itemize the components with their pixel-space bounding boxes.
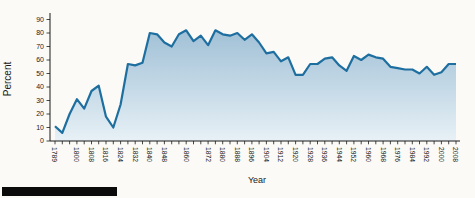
y-ticks [47,20,51,142]
x-tick-label: 1904 [263,147,270,162]
x-tick-label: 1968 [380,147,387,162]
x-tick-label: 1992 [423,147,430,162]
x-axis-title: Year [248,175,266,185]
x-tick-label: 1888 [234,147,241,162]
y-tick-label: 90 [36,16,44,23]
y-tick-label: 60 [36,56,44,63]
figure-caption-bar [2,187,117,196]
y-tick-label: 40 [36,83,44,90]
x-tick-label: 1976 [394,147,401,162]
x-tick-label: 1928 [307,147,314,162]
x-tick-label: 1789 [51,147,58,162]
x-tick-label: 1816 [102,147,109,162]
y-tick-label: 10 [36,124,44,131]
x-tick-label: 1912 [277,147,284,162]
y-axis-title: Percent [2,62,13,97]
y-tick-labels: 0102030405060708090 [36,16,44,145]
x-tick-label: 2000 [438,147,445,162]
x-tick-label: 1860 [183,147,190,162]
x-tick-label: 1984 [409,147,416,162]
y-tick-label: 30 [36,97,44,104]
voter-turnout-figure: 0102030405060708090 17891800180818161824… [0,0,475,198]
y-tick-label: 50 [36,70,44,77]
x-tick-label: 1808 [88,147,95,162]
x-tick-label: 1896 [248,147,255,162]
x-tick-label: 1800 [73,147,80,162]
x-tick-label: 1872 [205,147,212,162]
x-tick-label: 1832 [132,147,139,162]
x-tick-label: 1936 [321,147,328,162]
turnout-area-chart: 0102030405060708090 17891800180818161824… [0,0,475,198]
x-tick-label: 2008 [452,147,459,162]
y-tick-label: 70 [36,43,44,50]
x-tick-label: 1944 [336,147,343,162]
x-tick-label: 1960 [365,147,372,162]
x-tick-label: 1840 [146,147,153,162]
x-tick-label: 1880 [219,147,226,162]
x-tick-labels: 1789180018081816182418321840184818601872… [51,147,459,162]
y-tick-label: 80 [36,29,44,36]
x-tick-label: 1848 [161,147,168,162]
x-tick-label: 1824 [117,147,124,162]
y-tick-label: 0 [40,137,44,144]
y-tick-label: 20 [36,110,44,117]
x-tick-label: 1920 [292,147,299,162]
y-axis-ticks [47,20,51,142]
x-tick-label: 1952 [350,147,357,162]
